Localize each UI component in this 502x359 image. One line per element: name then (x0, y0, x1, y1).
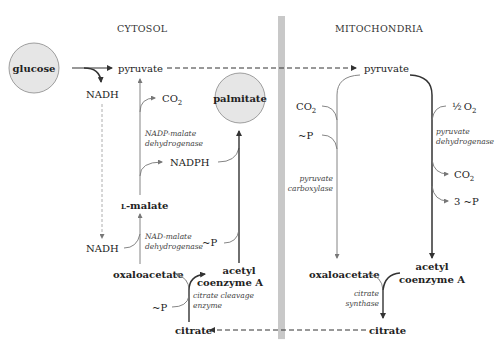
nadp-malate-dehydrogenase-label: NADP-malate (144, 129, 197, 138)
co2-release-arrow (140, 98, 155, 112)
atp-release-arrow (432, 186, 448, 201)
nadph-production-arrow (140, 162, 162, 176)
mito-phosphate: ~P (298, 130, 313, 141)
o2-input-arrow (432, 106, 446, 120)
cytosol-phosphate-1: ~P (202, 237, 217, 248)
mitochondria-header: MITOCHONDRIA (335, 23, 423, 34)
phosphate-input-2 (172, 296, 189, 307)
membrane-divider (278, 16, 285, 339)
svg-text:dehydrogenase: dehydrogenase (145, 139, 204, 148)
svg-text:carboxylase: carboxylase (288, 184, 334, 193)
co2-release-mito-arrow (432, 160, 448, 174)
mito-co2-left: CO2 (296, 101, 316, 115)
phosphate-input-mito (322, 135, 337, 149)
cytosol-co2: CO2 (162, 93, 182, 107)
mito-co2-right: CO2 (454, 169, 474, 183)
phosphate-input-1 (224, 230, 239, 243)
pyruvate-dehydrogenase-label: pyruvate (436, 127, 470, 136)
svg-text:dehydrogenase: dehydrogenase (145, 242, 204, 251)
mito-half-o2: ½O2 (452, 101, 476, 115)
cytosol-phosphate-2: ~P (152, 302, 167, 313)
mito-acetyl-coa-line1: acetyl (415, 261, 448, 272)
citrate-shuttle-diagram: CYTOSOL MITOCHONDRIA glucose pyruvate NA… (0, 0, 502, 359)
cytosol-l-malate: L-malate (121, 200, 168, 211)
cytosol-oxaloacetate: oxaloacetate (113, 269, 184, 280)
svg-text:glucose: glucose (13, 63, 56, 74)
nadh-input-arrow (124, 234, 140, 248)
acetylcoa-to-synthase (383, 273, 400, 290)
svg-text:enzyme: enzyme (193, 301, 223, 310)
cytosol-acetyl-coa-line1: acetyl (222, 265, 255, 276)
svg-text:synthase: synthase (345, 299, 379, 308)
pyruvate-carboxylase-label: pyruvate (299, 174, 333, 183)
mito-pyruvate: pyruvate (364, 63, 409, 74)
cytosol-citrate: citrate (175, 325, 212, 336)
co2-input-arrow (322, 106, 337, 120)
svg-text:palmitate: palmitate (213, 93, 267, 104)
nad-malate-dehydrogenase-label: NAD-malate (144, 232, 192, 241)
palmitate-node: palmitate (213, 73, 267, 123)
pyruvate-carboxylase-arrow (337, 75, 360, 258)
mito-three-phosphate: 3 ~P (454, 196, 479, 207)
cytosol-acetyl-coa-line2: coenzyme A (197, 277, 263, 288)
citrate-synthase-label: citrate (354, 289, 380, 298)
cytosol-header: CYTOSOL (117, 23, 168, 34)
nadh-branch-arrow (84, 68, 101, 82)
cytosol-nadh-top: NADH (86, 89, 119, 100)
mito-citrate: citrate (369, 325, 406, 336)
svg-text:dehydrogenase: dehydrogenase (436, 137, 495, 146)
cytosol-nadh-bottom: NADH (86, 243, 119, 254)
glucose-node: glucose (9, 43, 59, 93)
cytosol-nadph: NADPH (170, 157, 210, 168)
mito-acetyl-coa-line2: coenzyme A (399, 274, 465, 285)
citrate-cleavage-enzyme-label: citrate cleavage (193, 291, 255, 300)
cytosol-pyruvate: pyruvate (118, 63, 163, 74)
pyruvate-dehydrogenase-arrow (410, 75, 432, 258)
nadph-to-fatty-acid-arrow (218, 148, 239, 162)
